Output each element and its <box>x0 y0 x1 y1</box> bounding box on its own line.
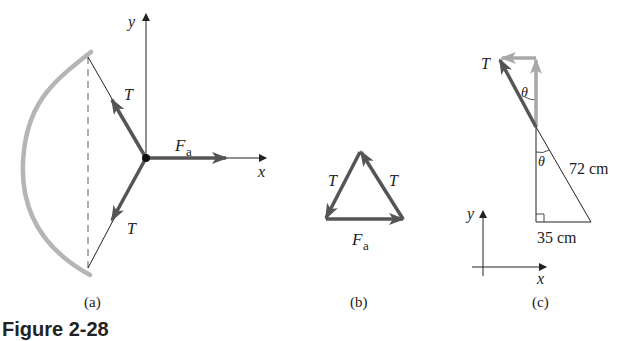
base-length: 35 cm <box>537 229 577 246</box>
tension-arrow <box>500 60 536 127</box>
figure-caption: Figure 2-28 <box>2 318 109 341</box>
tension-label-upper: T <box>124 86 134 103</box>
panel-c: T θ θ 72 cm 35 cm y x (c) <box>465 55 609 311</box>
panel-b-label: (b) <box>350 294 368 311</box>
knot-point <box>142 154 150 162</box>
x-axis-label: x <box>257 163 265 180</box>
angle-arc-lower <box>536 150 549 153</box>
panel-b: T T F a (b) <box>326 152 403 311</box>
bow <box>23 52 91 275</box>
right-angle-mark <box>536 214 544 222</box>
angle-label-upper: θ <box>521 85 528 100</box>
hypotenuse-length: 72 cm <box>569 160 609 177</box>
panel-a-label: (a) <box>84 294 101 311</box>
panel-a: y x T T F a (a) <box>23 13 266 311</box>
applied-force-subscript: a <box>363 238 369 253</box>
x-axis-label: x <box>536 270 544 287</box>
angle-label-lower: θ <box>538 154 545 169</box>
applied-force-subscript: a <box>186 144 192 159</box>
tension-label-left: T <box>328 172 338 189</box>
tension-arrow-upper <box>112 100 146 158</box>
y-axis-label: y <box>126 13 136 31</box>
applied-force-label: F <box>351 230 363 249</box>
applied-force-label: F <box>174 136 186 155</box>
tension-arrow-lower <box>112 158 146 220</box>
tension-label-lower: T <box>127 220 137 237</box>
panel-c-label: (c) <box>532 294 549 311</box>
tension-label: T <box>481 55 491 72</box>
tension-label-right: T <box>389 172 399 189</box>
y-axis-label: y <box>465 205 475 223</box>
